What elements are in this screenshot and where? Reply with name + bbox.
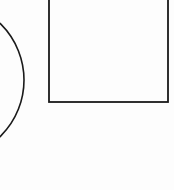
rectangle-shape <box>49 0 168 102</box>
diagram-canvas <box>0 0 174 190</box>
diagram-svg <box>0 0 174 190</box>
circle-shape <box>0 1 24 159</box>
